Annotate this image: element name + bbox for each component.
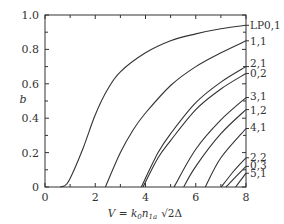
y-tick-label: 0.8 bbox=[22, 43, 40, 56]
x-tick-label: 8 bbox=[243, 191, 250, 204]
mode-label: LP0,1 bbox=[250, 19, 281, 31]
mode-dispersion-chart: 02468 00.20.40.60.81.0 LP0,11,12,10,23,1… bbox=[0, 0, 284, 224]
x-axis-label: V = k0n1a√2Δ bbox=[108, 207, 183, 221]
plot-frame bbox=[45, 15, 246, 187]
y-axis-ticks: 00.20.40.60.81.0 bbox=[22, 9, 247, 194]
mode-label: 1,1 bbox=[250, 35, 267, 47]
x-tick-label: 2 bbox=[92, 191, 99, 204]
mode-curve-4-1 bbox=[205, 129, 246, 188]
svg-text:V = k0n1a√2Δ: V = k0n1a√2Δ bbox=[108, 207, 183, 221]
y-tick-label: 0.2 bbox=[22, 147, 40, 160]
y-tick-label: 1.0 bbox=[22, 9, 40, 22]
x-tick-label: 4 bbox=[142, 191, 149, 204]
y-axis-label: b bbox=[19, 93, 26, 106]
y-tick-label: 0.4 bbox=[22, 112, 40, 125]
y-tick-label: 0.6 bbox=[22, 78, 40, 91]
mode-labels: LP0,11,12,10,23,11,24,12,20,35,1 bbox=[246, 19, 281, 179]
mode-curve-2-2 bbox=[221, 158, 246, 187]
mode-label: 5,1 bbox=[250, 167, 267, 179]
mode-label: 1,2 bbox=[250, 104, 267, 116]
mode-curves bbox=[60, 25, 246, 187]
mode-label: 3,1 bbox=[250, 90, 267, 102]
x-axis-ticks: 02468 bbox=[42, 15, 250, 204]
x-tick-label: 0 bbox=[42, 191, 49, 204]
plot-border bbox=[45, 15, 246, 187]
x-tick-label: 6 bbox=[192, 191, 199, 204]
mode-label: 4,1 bbox=[250, 121, 267, 133]
y-tick-label: 0 bbox=[32, 181, 39, 194]
mode-curve-1-1 bbox=[105, 41, 246, 187]
mode-label: 0,2 bbox=[250, 67, 267, 79]
mode-curve-3-1 bbox=[174, 98, 246, 187]
mode-curve-0-2 bbox=[143, 74, 246, 188]
